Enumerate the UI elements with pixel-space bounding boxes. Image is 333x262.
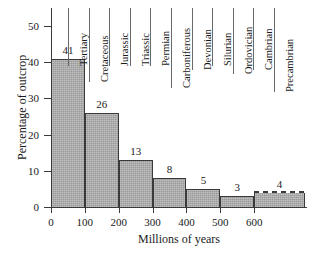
x-tick-label: 200 xyxy=(102,216,136,228)
period-separator-rule xyxy=(233,8,234,74)
x-tick-label: 100 xyxy=(68,216,102,228)
y-tick-label: 50 xyxy=(13,21,39,32)
bar-dashed-top-edge xyxy=(254,191,305,193)
y-tick-mark xyxy=(44,98,51,99)
period-separator-rule xyxy=(192,8,193,70)
period-separator-rule xyxy=(109,8,110,66)
y-tick-label: 10 xyxy=(13,166,39,177)
x-tick-mark xyxy=(220,207,221,213)
histogram-figure: 01020304050 0100200300400500600 41261385… xyxy=(0,0,333,262)
x-tick-label: 500 xyxy=(203,216,237,228)
histogram-bar xyxy=(220,196,254,207)
y-tick-mark xyxy=(44,171,51,172)
period-separator-rule xyxy=(253,8,254,70)
histogram-bar xyxy=(85,113,119,207)
x-tick-label: 600 xyxy=(237,216,271,228)
x-tick-label: 0 xyxy=(34,216,68,228)
period-separator-rule xyxy=(89,8,90,82)
bar-value-label: 13 xyxy=(99,146,173,157)
period-label: Precambrian xyxy=(285,39,296,92)
x-axis-title: Millions of years xyxy=(51,233,307,246)
bar-value-label: 26 xyxy=(65,99,139,110)
x-tick-label: 400 xyxy=(169,216,203,228)
y-tick-mark xyxy=(44,26,51,27)
histogram-bar xyxy=(254,193,305,207)
y-tick-mark xyxy=(44,207,51,208)
x-tick-mark xyxy=(254,207,255,213)
period-separator-rule xyxy=(212,8,213,66)
y-tick-mark xyxy=(44,135,51,136)
x-tick-mark xyxy=(85,207,86,213)
y-tick-label: 0 xyxy=(13,202,39,213)
histogram-bar xyxy=(51,59,85,207)
y-tick-mark xyxy=(44,62,51,63)
x-tick-mark xyxy=(153,207,154,213)
x-tick-mark xyxy=(119,207,120,213)
period-separator-rule xyxy=(171,8,172,88)
x-axis-line xyxy=(51,207,307,208)
period-separator-rule xyxy=(130,8,131,66)
period-separator-rule xyxy=(150,8,151,66)
y-axis-title: Percentage of outcrop xyxy=(16,55,28,160)
period-separator-rule xyxy=(274,8,275,92)
x-tick-mark xyxy=(186,207,187,213)
x-tick-label: 300 xyxy=(136,216,170,228)
period-separator-rule xyxy=(68,8,69,66)
bar-value-label: 4 xyxy=(234,179,325,190)
x-tick-mark xyxy=(51,207,52,213)
bar-value-label: 8 xyxy=(133,164,207,175)
